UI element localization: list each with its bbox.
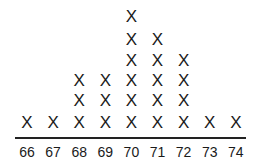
x-marker: X	[121, 92, 141, 109]
x-marker: X	[69, 92, 89, 109]
x-marker: X	[148, 72, 168, 89]
x-marker: X	[69, 72, 89, 89]
x-marker: X	[148, 52, 168, 69]
x-tick-label: 71	[146, 145, 170, 159]
x-tick-label: 67	[41, 145, 65, 159]
x-marker: X	[43, 114, 63, 131]
x-axis-line	[15, 137, 246, 139]
x-marker: X	[174, 114, 194, 131]
x-marker: X	[95, 114, 115, 131]
x-marker: X	[226, 114, 246, 131]
x-marker: X	[121, 72, 141, 89]
x-tick-label: 68	[67, 145, 91, 159]
x-marker: X	[121, 52, 141, 69]
x-marker: X	[95, 72, 115, 89]
x-marker: X	[200, 114, 220, 131]
x-tick-label: 70	[119, 145, 143, 159]
x-marker: X	[17, 114, 37, 131]
x-marker: X	[148, 114, 168, 131]
x-marker: X	[121, 31, 141, 48]
x-marker: X	[174, 52, 194, 69]
x-tick-label: 66	[15, 145, 39, 159]
x-marker: X	[148, 31, 168, 48]
x-tick-label: 72	[172, 145, 196, 159]
x-marker: X	[174, 72, 194, 89]
x-marker: X	[174, 92, 194, 109]
x-marker: X	[95, 92, 115, 109]
x-marker: X	[69, 114, 89, 131]
x-tick-label: 74	[224, 145, 248, 159]
x-marker: X	[148, 92, 168, 109]
x-tick-label: 73	[198, 145, 222, 159]
x-tick-label: 69	[93, 145, 117, 159]
x-marker: X	[121, 8, 141, 25]
x-marker: X	[121, 114, 141, 131]
